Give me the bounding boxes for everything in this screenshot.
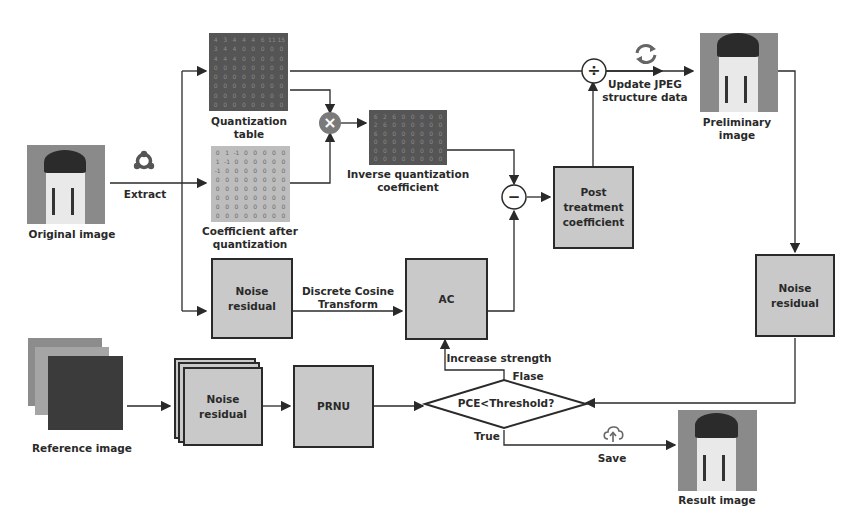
- matrix-cell: 0: [230, 92, 239, 99]
- matrix-cell: -1: [232, 149, 241, 156]
- matrix-cell: 0: [251, 185, 260, 192]
- refresh-icon: [632, 42, 660, 66]
- matrix-cell: 6: [371, 113, 380, 120]
- matrix-cell: 0: [279, 167, 288, 174]
- diagram-canvas: × − ÷ Original image Extract 43444611153…: [0, 0, 864, 527]
- matrix-cell: 0: [427, 138, 436, 145]
- matrix-cell: 0: [260, 194, 269, 201]
- matrix-cell: 0: [269, 149, 278, 156]
- matrix-cell: 0: [380, 130, 389, 137]
- matrix-cell: 0: [269, 185, 278, 192]
- matrix-cell: 0: [249, 55, 258, 62]
- matrix-cell: 0: [277, 82, 286, 89]
- inverse-quantization-matrix: 6260000026000000600000000000000000000000…: [369, 110, 447, 165]
- false-label: Flase: [512, 370, 543, 383]
- matrix-cell: 0: [249, 101, 258, 108]
- matrix-cell: 0: [417, 147, 426, 154]
- matrix-cell: 0: [408, 147, 417, 154]
- matrix-cell: 4: [220, 45, 229, 52]
- matrix-cell: 0: [436, 155, 445, 162]
- matrix-cell: 0: [371, 155, 380, 162]
- original-image-label: Original image: [29, 228, 116, 241]
- cloud-upload-icon: [602, 422, 624, 444]
- matrix-cell: 0: [251, 167, 260, 174]
- matrix-cell: 0: [277, 73, 286, 80]
- matrix-cell: 0: [267, 101, 276, 108]
- matrix-cell: 0: [427, 130, 436, 137]
- matrix-cell: 0: [417, 113, 426, 120]
- original-image: [27, 145, 105, 224]
- matrix-cell: 0: [427, 155, 436, 162]
- inverse-quantization-text: Inverse quantization coefficient: [343, 168, 473, 194]
- matrix-cell: 0: [269, 158, 278, 165]
- matrix-cell: 0: [390, 147, 399, 154]
- matrix-cell: 0: [222, 185, 231, 192]
- matrix-cell: 0: [390, 138, 399, 145]
- matrix-cell: 0: [427, 113, 436, 120]
- matrix-cell: 0: [267, 55, 276, 62]
- matrix-cell: 0: [267, 73, 276, 80]
- matrix-cell: 0: [436, 130, 445, 137]
- matrix-cell: 0: [408, 130, 417, 137]
- matrix-cell: 0: [267, 92, 276, 99]
- matrix-cell: 1: [222, 149, 231, 156]
- post-treatment-text: Post treatment coefficient: [559, 185, 629, 230]
- matrix-cell: 0: [251, 203, 260, 210]
- matrix-cell: 0: [241, 158, 250, 165]
- matrix-cell: 0: [213, 212, 222, 219]
- matrix-cell: 6: [371, 130, 380, 137]
- matrix-cell: 0: [399, 155, 408, 162]
- subtract-operator: −: [508, 188, 521, 206]
- matrix-cell: 4: [220, 55, 229, 62]
- matrix-cell: 0: [258, 101, 267, 108]
- matrix-cell: 0: [220, 101, 229, 108]
- matrix-cell: 0: [277, 55, 286, 62]
- matrix-cell: 0: [213, 176, 222, 183]
- noise-residual-stack-text: Noise residual: [193, 392, 253, 422]
- matrix-cell: 0: [249, 92, 258, 99]
- noise-residual-right-box: Noise residual: [755, 254, 835, 337]
- matrix-cell: 0: [279, 203, 288, 210]
- matrix-cell: 0: [232, 212, 241, 219]
- preliminary-image: [700, 33, 778, 112]
- matrix-cell: 0: [380, 138, 389, 145]
- matrix-cell: 2: [371, 121, 380, 128]
- matrix-cell: 15: [277, 36, 286, 43]
- preliminary-image-text: Preliminary image: [697, 116, 777, 142]
- matrix-cell: 0: [267, 45, 276, 52]
- matrix-cell: 0: [220, 64, 229, 71]
- matrix-cell: 0: [371, 147, 380, 154]
- matrix-cell: 0: [239, 92, 248, 99]
- matrix-cell: 0: [436, 121, 445, 128]
- matrix-cell: 0: [427, 121, 436, 128]
- matrix-cell: 0: [249, 45, 258, 52]
- matrix-cell: 0: [213, 203, 222, 210]
- matrix-cell: 0: [279, 158, 288, 165]
- matrix-cell: 4: [249, 36, 258, 43]
- matrix-cell: 0: [380, 147, 389, 154]
- matrix-cell: 0: [258, 92, 267, 99]
- extract-label: Extract: [124, 188, 166, 201]
- matrix-cell: 0: [260, 185, 269, 192]
- matrix-cell: 0: [399, 130, 408, 137]
- matrix-cell: 3: [220, 36, 229, 43]
- matrix-cell: 0: [258, 64, 267, 71]
- matrix-cell: 0: [417, 130, 426, 137]
- matrix-cell: 0: [260, 149, 269, 156]
- preliminary-image-label: Preliminary image: [697, 116, 777, 142]
- matrix-cell: 0: [277, 92, 286, 99]
- matrix-cell: 0: [239, 73, 248, 80]
- matrix-cell: 0: [251, 176, 260, 183]
- ac-box: AC: [405, 258, 488, 340]
- matrix-cell: 0: [232, 167, 241, 174]
- matrix-cell: 0: [239, 55, 248, 62]
- save-label: Save: [598, 452, 627, 465]
- matrix-cell: 0: [269, 203, 278, 210]
- matrix-cell: 4: [211, 36, 220, 43]
- matrix-cell: 4: [230, 36, 239, 43]
- matrix-cell: 0: [249, 64, 258, 71]
- matrix-cell: 4: [230, 45, 239, 52]
- matrix-cell: 0: [222, 203, 231, 210]
- coefficient-after-quantization-matrix: 01-1000001-1000000-100000000000000000000…: [211, 146, 290, 222]
- matrix-cell: 0: [260, 167, 269, 174]
